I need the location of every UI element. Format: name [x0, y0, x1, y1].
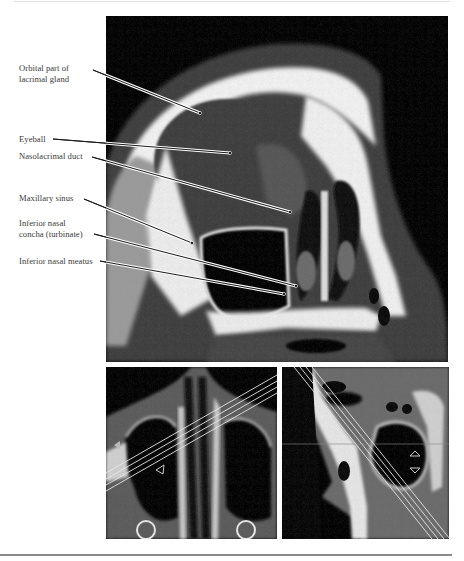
bottom-rule	[0, 554, 452, 556]
label-inferior-nasal-meatus: Inferior nasal meatus	[19, 256, 93, 267]
top-rule	[14, 1, 450, 2]
label-nasolacrimal-duct: Nasolacrimal duct	[19, 151, 83, 162]
label-maxillary-sinus: Maxillary sinus	[19, 193, 73, 204]
axial-ct-nasal-image	[106, 367, 277, 539]
coronal-ct-main-image	[106, 16, 448, 362]
sagittal-ct-sinus-image	[282, 367, 449, 539]
label-inferior-nasal-concha: Inferior nasal concha (turbinate)	[19, 218, 83, 240]
label-orbital-lacrimal-gland: Orbital part of lacrimal gland	[19, 63, 69, 85]
label-eyeball: Eyeball	[19, 134, 46, 145]
